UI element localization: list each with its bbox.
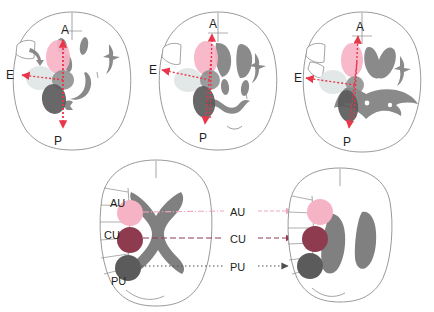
circle-pu-br bbox=[297, 253, 323, 279]
blob-au-1 bbox=[46, 40, 70, 74]
connector-label-au: AU bbox=[230, 206, 245, 218]
connector-label-cu: CU bbox=[230, 233, 246, 245]
axis-label-anterior-3: A bbox=[356, 20, 364, 34]
axis-label-posterior-1: P bbox=[54, 134, 62, 148]
circle-cu-br bbox=[302, 226, 328, 252]
axial-panel-3: A P E bbox=[294, 12, 421, 152]
axis-label-posterior-3: P bbox=[343, 135, 351, 149]
coronal-panel-left: AU CU PU bbox=[100, 160, 212, 306]
axis-label-lateral-1: E bbox=[6, 68, 14, 82]
axial-panel-2: A P E bbox=[149, 12, 277, 150]
bat-hole-a-3 bbox=[365, 101, 370, 106]
coronal-panel-right bbox=[288, 168, 392, 302]
region-label-cu-bl: CU bbox=[104, 229, 120, 241]
region-label-au-bl: AU bbox=[110, 197, 125, 209]
brain-atlas-figure: A P E A P E bbox=[0, 0, 434, 312]
region-label-pu-bl: PU bbox=[111, 275, 126, 287]
axis-label-lateral-2: E bbox=[149, 63, 157, 77]
blob-au-3 bbox=[341, 43, 363, 77]
blob-au-2 bbox=[194, 41, 218, 75]
axis-label-posterior-2: P bbox=[199, 131, 207, 145]
axial-panel-1: A P E bbox=[6, 12, 131, 150]
blob-pale-3 bbox=[319, 70, 347, 94]
bat-hole-b-3 bbox=[388, 103, 392, 107]
axis-label-anterior-1: A bbox=[61, 23, 69, 37]
axis-label-anterior-2: A bbox=[209, 17, 217, 31]
connector-label-pu: PU bbox=[230, 261, 245, 273]
circle-cu-bl bbox=[117, 227, 143, 253]
circle-au-br bbox=[307, 199, 333, 225]
axis-label-lateral-3: E bbox=[294, 71, 302, 85]
